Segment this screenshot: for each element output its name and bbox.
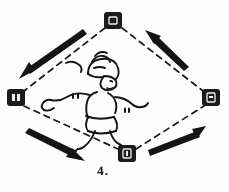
node-bottom[interactable]: □ [118, 145, 136, 162]
node-left[interactable]: □ [7, 89, 25, 106]
arrow-group [19, 29, 206, 161]
figure-canvas: □ □ □ □ 4. [0, 0, 229, 192]
arrow-lower-left [25, 128, 85, 161]
connection-top-right [122, 28, 203, 91]
node-top[interactable]: □ [104, 12, 122, 29]
connection-left-bottom [24, 106, 118, 149]
arrow-upper-left [19, 29, 87, 79]
node-right[interactable]: □ [202, 89, 220, 106]
figure-caption-text: 4. [96, 163, 109, 180]
figure-caption: 4. [0, 163, 229, 179]
arrow-lower-right [148, 126, 206, 156]
